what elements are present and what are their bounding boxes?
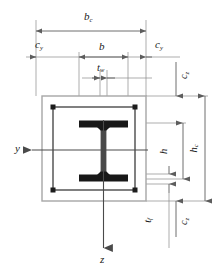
label-hc: hc <box>189 144 200 152</box>
label-tw: tw <box>97 63 104 74</box>
label-bc: bc <box>84 11 93 23</box>
rebar-bottom-right <box>133 188 138 193</box>
label-b: b <box>99 41 105 52</box>
label-cz-top: cz <box>179 72 190 79</box>
concrete-outline <box>42 96 146 201</box>
rebar-bottom-left <box>51 188 56 193</box>
label-axis-y: y <box>15 143 20 154</box>
diagram-canvas: bc cy b cy tw cz cz h hc tf y z <box>0 0 218 278</box>
label-cy-left: cy <box>35 39 43 51</box>
label-cz-bottom: cz <box>179 218 190 225</box>
label-axis-z: z <box>100 254 104 265</box>
rebar-top-left <box>51 105 56 110</box>
label-cy-right: cy <box>155 39 163 51</box>
label-h: h <box>159 149 170 154</box>
cross-section-drawing <box>0 0 218 278</box>
rebar-top-right <box>133 105 138 110</box>
label-tf: tf <box>143 218 154 223</box>
